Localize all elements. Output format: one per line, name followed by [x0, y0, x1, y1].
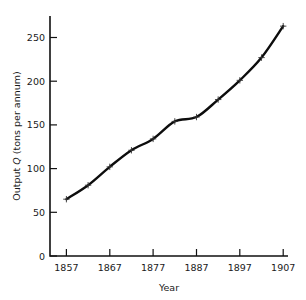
output-vs-year-line-chart: 0 50 100 150 200 250 1857 1867 1877 1887… — [0, 0, 306, 300]
x-axis-title: Year — [158, 282, 179, 293]
svg-text:Output Q (tons per annum): Output Q (tons per annum) — [11, 71, 22, 200]
y-axis-title-prefix: Output — [11, 165, 22, 201]
y-axis-title-suffix: (tons per annum) — [11, 71, 22, 157]
x-tick-label: 1907 — [271, 262, 295, 273]
x-tick-label: 1897 — [228, 262, 252, 273]
x-tick-label: 1857 — [54, 262, 78, 273]
y-tick-label: 200 — [27, 76, 45, 87]
y-tick-label: 50 — [33, 207, 45, 218]
y-tick-label: 150 — [27, 119, 45, 130]
x-tick-label: 1887 — [184, 262, 208, 273]
y-tick-label: 0 — [39, 251, 45, 262]
chart-container: 0 50 100 150 200 250 1857 1867 1877 1887… — [0, 0, 306, 300]
x-tick-label: 1867 — [98, 262, 122, 273]
x-tick-label: 1877 — [141, 262, 165, 273]
y-tick-label: 250 — [27, 32, 45, 43]
y-tick-label: 100 — [27, 163, 45, 174]
y-axis-title: Output Q (tons per annum) — [11, 71, 22, 200]
